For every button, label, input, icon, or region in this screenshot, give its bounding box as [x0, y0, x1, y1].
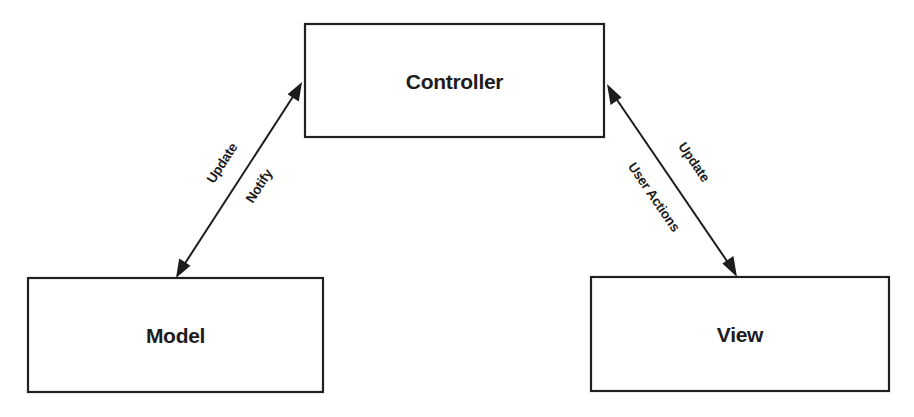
controller-label: Controller	[406, 70, 503, 93]
arrowhead-to-controller-icon	[288, 82, 302, 102]
controller-node: Controller	[305, 24, 604, 137]
controller-view-connector: Update User Actions	[607, 84, 737, 277]
model-node: Model	[28, 278, 323, 392]
edge-label-user-actions: User Actions	[625, 160, 683, 235]
edge-label-update-view: Update	[675, 139, 713, 185]
view-node: View	[591, 277, 889, 391]
edge-label-update-model: Update	[204, 140, 241, 186]
controller-view-line	[613, 94, 731, 267]
model-label: Model	[146, 324, 205, 347]
view-label: View	[717, 323, 764, 346]
arrowhead-to-model-icon	[176, 259, 190, 279]
controller-model-line	[182, 92, 296, 268]
controller-model-connector: Update Notify	[176, 82, 302, 278]
mvc-diagram: Controller Model View Update Notify Upda…	[0, 0, 914, 417]
edge-label-notify: Notify	[243, 166, 276, 206]
